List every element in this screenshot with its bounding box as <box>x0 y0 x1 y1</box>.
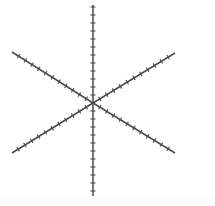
scan-edge-artifact <box>0 197 215 206</box>
figure-background <box>0 0 215 206</box>
figure-canvas <box>0 0 215 206</box>
asterisk-figure-svg <box>0 0 215 206</box>
